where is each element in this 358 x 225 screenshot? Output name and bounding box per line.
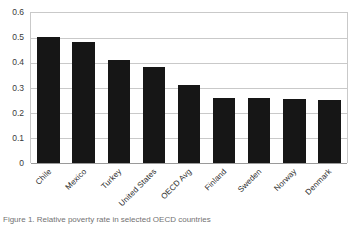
bar-slot xyxy=(101,12,136,163)
bar-norway[interactable] xyxy=(283,99,305,163)
bar-slot xyxy=(66,12,101,163)
x-label-slot: OECD Avg xyxy=(171,164,206,212)
bar-slot xyxy=(312,12,347,163)
bar-slot xyxy=(242,12,277,163)
figure-caption-clip: Figure 1. Relative poverty rate in selec… xyxy=(0,216,358,225)
x-label-slot: Denmark xyxy=(312,164,347,212)
y-tick-label: 0.5 xyxy=(12,33,24,42)
bar-united-states[interactable] xyxy=(143,67,165,163)
bar-denmark[interactable] xyxy=(318,100,340,163)
bar-mexico[interactable] xyxy=(72,42,94,163)
bar-slot xyxy=(31,12,66,163)
bar-sweden[interactable] xyxy=(248,98,270,163)
y-axis: 0.6 0.5 0.4 0.3 0.2 0.1 0 xyxy=(0,12,28,163)
y-tick-label: 0 xyxy=(19,159,24,168)
y-tick-label: 0.3 xyxy=(12,83,24,92)
y-tick-label: 0.2 xyxy=(12,108,24,117)
y-tick-label: 0.6 xyxy=(12,8,24,17)
x-label-slot: Mexico xyxy=(66,164,101,212)
x-label-slot: Sweden xyxy=(242,164,277,212)
bar-chart-figure: 0.6 0.5 0.4 0.3 0.2 0.1 0 Chile Mexico xyxy=(0,0,358,225)
x-axis: Chile Mexico Turkey United States OECD A… xyxy=(31,164,347,212)
y-tick-label: 0.4 xyxy=(12,58,24,67)
bar-oecd-avg[interactable] xyxy=(178,85,200,163)
bar-slot xyxy=(136,12,171,163)
bar-slot xyxy=(277,12,312,163)
bar-turkey[interactable] xyxy=(108,60,130,163)
x-label-slot: Chile xyxy=(31,164,66,212)
bar-finland[interactable] xyxy=(213,98,235,163)
figure-caption: Figure 1. Relative poverty rate in selec… xyxy=(3,216,211,224)
bar-chile[interactable] xyxy=(37,37,59,163)
y-tick-label: 0.1 xyxy=(12,134,24,143)
